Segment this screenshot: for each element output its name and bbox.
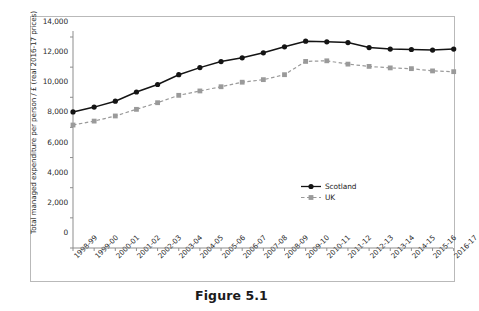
chart-legend: Scotland UK bbox=[300, 181, 356, 203]
data-point-scotland bbox=[113, 99, 118, 104]
data-point-scotland bbox=[345, 40, 350, 45]
data-point-uk bbox=[367, 64, 372, 69]
figure-caption: Figure 5.1 bbox=[0, 288, 463, 303]
data-point-uk bbox=[303, 59, 308, 64]
data-point-uk bbox=[261, 77, 266, 82]
data-point-uk bbox=[282, 72, 287, 77]
data-point-scotland bbox=[176, 72, 181, 77]
data-point-uk bbox=[409, 66, 414, 71]
legend-label-scotland: Scotland bbox=[325, 181, 356, 192]
data-point-uk bbox=[219, 84, 224, 89]
data-point-uk bbox=[430, 69, 435, 74]
data-point-uk bbox=[324, 58, 329, 63]
data-point-uk bbox=[155, 100, 160, 105]
data-point-scotland bbox=[430, 48, 435, 53]
legend-marker-scotland-icon bbox=[300, 181, 322, 192]
data-point-scotland bbox=[367, 45, 372, 50]
data-point-scotland bbox=[197, 65, 202, 70]
data-point-scotland bbox=[92, 104, 97, 109]
series-line-uk bbox=[73, 61, 454, 125]
data-point-scotland bbox=[388, 46, 393, 51]
data-point-scotland bbox=[303, 39, 308, 44]
data-point-scotland bbox=[282, 44, 287, 49]
legend-marker-uk-icon bbox=[300, 192, 322, 203]
legend-label-uk: UK bbox=[325, 192, 335, 203]
data-point-uk bbox=[176, 93, 181, 98]
data-point-scotland bbox=[218, 59, 223, 64]
data-point-uk bbox=[92, 119, 97, 124]
data-point-uk bbox=[134, 107, 139, 112]
data-point-scotland bbox=[261, 50, 266, 55]
data-point-scotland bbox=[70, 109, 75, 114]
data-point-scotland bbox=[240, 55, 245, 60]
data-point-uk bbox=[240, 80, 245, 85]
data-point-scotland bbox=[451, 46, 456, 51]
data-point-uk bbox=[71, 123, 76, 128]
legend-item-uk: UK bbox=[300, 192, 356, 203]
data-point-scotland bbox=[409, 47, 414, 52]
data-point-scotland bbox=[155, 82, 160, 87]
data-point-scotland bbox=[134, 89, 139, 94]
data-point-uk bbox=[451, 69, 456, 74]
legend-item-scotland: Scotland bbox=[300, 181, 356, 192]
data-point-uk bbox=[346, 62, 351, 67]
data-point-uk bbox=[113, 114, 118, 119]
data-point-uk bbox=[198, 89, 203, 94]
data-point-uk bbox=[388, 65, 393, 70]
data-point-scotland bbox=[324, 39, 329, 44]
